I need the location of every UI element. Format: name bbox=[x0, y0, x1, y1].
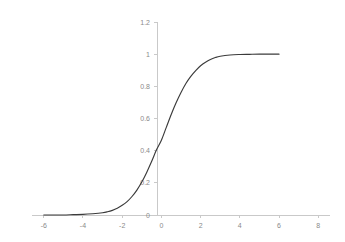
x-tick-label: 2 bbox=[199, 222, 203, 229]
y-tick-label: 1.2 bbox=[140, 19, 150, 26]
y-tick-label: 0.4 bbox=[140, 147, 150, 154]
y-tick-label: 0 bbox=[146, 212, 150, 219]
y-tick-label: 1 bbox=[146, 51, 150, 58]
data-line-sigmoid bbox=[44, 54, 279, 215]
data-series-group bbox=[44, 54, 279, 215]
plot-area: -6-4-202468 00.20.40.60.811.2 bbox=[0, 0, 345, 242]
x-axis bbox=[32, 215, 330, 218]
y-tick-label-group: 00.20.40.60.811.2 bbox=[140, 19, 150, 219]
x-tick-label: 0 bbox=[159, 222, 163, 229]
x-tick-label: 4 bbox=[238, 222, 242, 229]
x-tick-label: 6 bbox=[277, 222, 281, 229]
sigmoid-chart: -6-4-202468 00.20.40.60.811.2 bbox=[0, 0, 345, 242]
y-tick-label: 0.8 bbox=[140, 83, 150, 90]
x-tick-label-group: -6-4-202468 bbox=[41, 222, 321, 229]
x-tick-label: -4 bbox=[80, 222, 86, 229]
x-tick-label: -6 bbox=[41, 222, 47, 229]
x-tick-label: 8 bbox=[316, 222, 320, 229]
y-axis bbox=[154, 22, 157, 215]
x-tick-label: -2 bbox=[119, 222, 125, 229]
y-tick-label: 0.6 bbox=[140, 115, 150, 122]
